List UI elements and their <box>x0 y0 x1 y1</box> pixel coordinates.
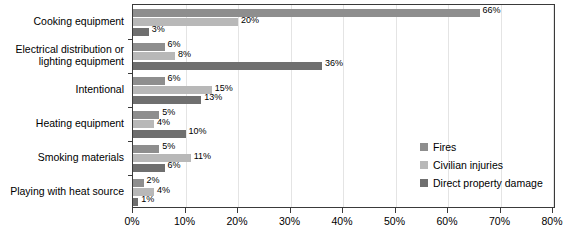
legend-label: Civilian injuries <box>433 159 503 171</box>
bar-value-label: 36% <box>325 59 343 68</box>
bar <box>133 111 159 119</box>
x-axis-tick <box>132 208 133 213</box>
chart-legend: FiresCivilian injuriesDirect property da… <box>420 138 543 192</box>
category-label: Electrical distribution orlighting equip… <box>0 43 124 68</box>
x-axis-tick <box>342 208 343 213</box>
category-label-line: Electrical distribution or <box>0 43 124 56</box>
x-axis-tick <box>552 208 553 213</box>
bar <box>133 77 165 85</box>
x-axis-tick-label: 20% <box>226 215 247 227</box>
bar-value-label: 5% <box>162 142 175 151</box>
category-label: Cooking equipment <box>0 15 124 28</box>
bar-value-label: 6% <box>168 40 181 49</box>
bar-row: 20% <box>133 18 554 26</box>
bar-value-label: 11% <box>194 152 211 161</box>
bar-row: 3% <box>133 28 554 36</box>
category-label-line: lighting equipment <box>0 55 124 68</box>
bar-group: 66%20%3% <box>133 9 554 36</box>
bar-value-label: 6% <box>168 74 181 83</box>
legend-swatch-icon <box>420 161 428 169</box>
category-axis-tick <box>128 107 133 108</box>
bar-row: 1% <box>133 198 554 206</box>
x-axis-tick-label: 30% <box>279 215 300 227</box>
legend-item[interactable]: Direct property damage <box>420 174 543 192</box>
bar-value-label: 1% <box>141 195 154 204</box>
value-axis: 0%10%20%30%40%50%60%70%80% <box>132 208 555 236</box>
bar <box>133 164 165 172</box>
bar <box>133 86 212 94</box>
category-label: Playing with heat source <box>0 185 124 198</box>
bar-value-label: 66% <box>483 6 501 15</box>
x-axis-tick <box>290 208 291 213</box>
bar-value-label: 10% <box>189 127 207 136</box>
bar <box>133 52 175 60</box>
x-axis-tick-label: 50% <box>384 215 405 227</box>
x-axis-tick <box>185 208 186 213</box>
bar-value-label: 13% <box>204 93 222 102</box>
category-label-line: Heating equipment <box>0 117 124 130</box>
bar <box>133 62 322 70</box>
bar-row: 15% <box>133 86 554 94</box>
bar-value-label: 4% <box>157 118 170 127</box>
bar <box>133 96 201 104</box>
bar-group: 6%15%13% <box>133 77 554 104</box>
bar-group: 6%8%36% <box>133 43 554 70</box>
category-axis-tick <box>128 175 133 176</box>
x-axis-tick <box>447 208 448 213</box>
bar-row: 66% <box>133 9 554 17</box>
legend-label: Direct property damage <box>433 177 543 189</box>
category-label: Heating equipment <box>0 117 124 130</box>
bar-row: 5% <box>133 111 554 119</box>
bar <box>133 120 154 128</box>
category-label: Intentional <box>0 83 124 96</box>
bar-row: 6% <box>133 77 554 85</box>
x-axis-tick-label: 80% <box>541 215 562 227</box>
x-axis-tick-label: 40% <box>331 215 352 227</box>
category-label-line: Playing with heat source <box>0 185 124 198</box>
category-label-line: Intentional <box>0 83 124 96</box>
category-axis-tick <box>128 141 133 142</box>
bar <box>133 198 138 206</box>
legend-swatch-icon <box>420 143 428 151</box>
category-axis-tick <box>128 39 133 40</box>
category-label-line: Smoking materials <box>0 151 124 164</box>
bar-row: 36% <box>133 62 554 70</box>
bar-row: 13% <box>133 96 554 104</box>
category-label: Smoking materials <box>0 151 124 164</box>
bar <box>133 154 191 162</box>
x-axis-tick-label: 60% <box>436 215 457 227</box>
x-axis-tick-label: 10% <box>174 215 195 227</box>
bar <box>133 43 165 51</box>
bar <box>133 179 144 187</box>
bar <box>133 145 159 153</box>
legend-swatch-icon <box>420 179 428 187</box>
x-axis-tick-label: 70% <box>489 215 510 227</box>
bar-value-label: 2% <box>147 176 160 185</box>
bar-row: 8% <box>133 52 554 60</box>
bar-value-label: 4% <box>157 186 170 195</box>
bar <box>133 28 149 36</box>
category-axis-tick <box>128 73 133 74</box>
bar-value-label: 3% <box>152 25 165 34</box>
bar <box>133 9 480 17</box>
bar-value-label: 8% <box>178 50 191 59</box>
legend-item[interactable]: Civilian injuries <box>420 156 543 174</box>
bar-value-label: 5% <box>162 108 175 117</box>
x-axis-tick <box>237 208 238 213</box>
bar <box>133 18 238 26</box>
category-label-line: Cooking equipment <box>0 15 124 28</box>
bar-value-label: 6% <box>168 161 181 170</box>
bar-row: 10% <box>133 130 554 138</box>
x-axis-tick-label: 0% <box>124 215 139 227</box>
bar <box>133 130 186 138</box>
legend-label: Fires <box>433 141 456 153</box>
bar-group: 5%4%10% <box>133 111 554 138</box>
bar-row: 6% <box>133 43 554 51</box>
x-axis-tick <box>395 208 396 213</box>
bar-chart: Cooking equipmentElectrical distribution… <box>0 0 578 236</box>
bar-value-label: 20% <box>241 16 259 25</box>
legend-item[interactable]: Fires <box>420 138 543 156</box>
category-axis: Cooking equipmentElectrical distribution… <box>0 0 128 208</box>
x-axis-tick <box>500 208 501 213</box>
